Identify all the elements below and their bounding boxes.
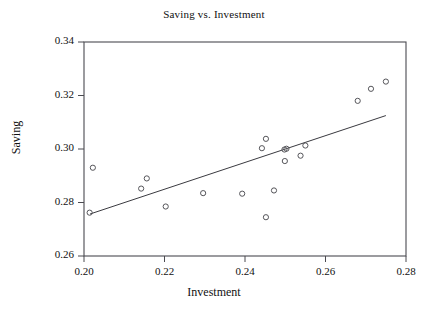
data-point (163, 204, 168, 209)
regression-line (90, 116, 386, 214)
data-point (282, 158, 287, 163)
plot-area (0, 0, 428, 314)
data-point (90, 165, 95, 170)
data-point (139, 186, 144, 191)
data-point (240, 191, 245, 196)
data-point (298, 153, 303, 158)
data-point (383, 79, 388, 84)
axis-ticks (78, 42, 406, 262)
data-point (368, 86, 373, 91)
data-points (87, 79, 388, 220)
data-point (355, 98, 360, 103)
data-point (303, 143, 308, 148)
data-point (259, 146, 264, 151)
scatter-chart: Saving vs. Investment Saving Investment … (0, 0, 428, 314)
data-point (263, 136, 268, 141)
data-point (144, 176, 149, 181)
data-point (271, 188, 276, 193)
data-point (201, 191, 206, 196)
data-point (87, 210, 92, 215)
data-point (263, 215, 268, 220)
plot-frame (84, 42, 406, 256)
